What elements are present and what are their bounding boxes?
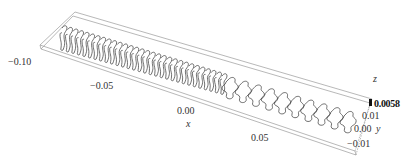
contour-loop	[132, 47, 139, 70]
contour-loop	[99, 37, 106, 61]
contour-loop	[143, 51, 150, 74]
contour-loop	[176, 61, 183, 83]
z-axis-marker	[369, 99, 372, 106]
x-tick-label: −0.10	[8, 57, 31, 67]
contour-loop	[209, 70, 216, 91]
contour-loop	[261, 89, 277, 110]
contour-loop	[165, 57, 172, 79]
contour-loop	[121, 44, 128, 67]
contour-loop	[170, 59, 177, 81]
x-axis-label: x	[186, 119, 190, 129]
contour-loop	[115, 42, 122, 65]
contour-loop	[220, 74, 227, 95]
x-tick-label: 0.05	[251, 133, 269, 143]
z-axis-label: z	[373, 74, 377, 84]
y-tick-label: 0.01	[362, 111, 380, 121]
y-axis-label: y	[376, 124, 380, 134]
contour-loop	[187, 64, 194, 85]
contour-loop	[203, 69, 210, 90]
y-tick-label: 0.00	[354, 124, 372, 134]
contour-loop	[192, 65, 199, 86]
contour-loop	[248, 85, 264, 106]
contour-loop	[93, 36, 100, 60]
z-tick-label: 0.0058	[374, 99, 400, 109]
contour-loop	[126, 46, 133, 69]
contour-loop	[301, 100, 317, 121]
contour-loop	[110, 41, 117, 64]
contour-loop	[181, 62, 188, 84]
contour-loop	[159, 56, 166, 78]
contour-loop	[274, 93, 290, 114]
contour-loop	[288, 96, 304, 117]
x-tick-label: −0.05	[90, 81, 113, 91]
contour-loop	[154, 54, 161, 76]
contour-loop	[137, 49, 144, 72]
contour-loop	[104, 39, 111, 63]
contour-loop	[314, 104, 330, 125]
contour-loop	[327, 108, 343, 129]
contour-loop	[235, 81, 251, 102]
contour-loop	[148, 52, 155, 74]
y-tick-label: −0.01	[347, 139, 370, 149]
contour-loop	[198, 67, 205, 88]
contour-loop	[214, 72, 221, 93]
x-tick-label: 0.00	[177, 106, 195, 116]
